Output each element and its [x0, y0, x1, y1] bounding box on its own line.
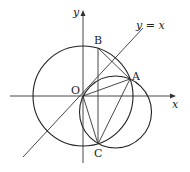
point-label-b: B — [94, 34, 102, 47]
x-axis-label: x — [172, 98, 179, 111]
y-axis-label: y — [72, 6, 80, 19]
line-label: y = x — [135, 19, 165, 32]
geometry-diagram: y x y = x B A O C — [0, 0, 190, 172]
point-label-a: A — [131, 70, 141, 83]
circle-through-o-a-c — [80, 76, 152, 148]
segment-ba — [98, 48, 130, 79]
point-label-c: C — [94, 147, 102, 160]
y-axis-arrow-icon — [81, 10, 86, 16]
segment-oc — [83, 96, 98, 144]
point-label-o: O — [71, 84, 80, 97]
